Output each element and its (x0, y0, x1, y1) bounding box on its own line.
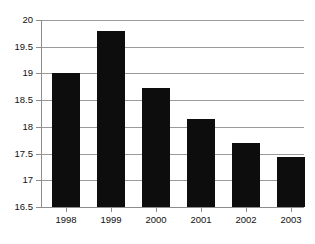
gridline-17 (41, 180, 304, 181)
bar-chart: 20 19.5 19 18.5 18 17.5 17 16.5 1998 199… (0, 0, 315, 244)
bar-1999 (97, 31, 125, 207)
x-tick-mark-2002 (246, 208, 247, 212)
y-tick-mark-17 (36, 180, 41, 181)
x-tick-mark-2000 (156, 208, 157, 212)
y-tick-mark-18 (36, 127, 41, 128)
gridline-20 (41, 20, 304, 21)
x-axis-label-2003: 2003 (268, 214, 314, 225)
x-axis-label-2001: 2001 (178, 214, 224, 225)
bar-2001 (187, 119, 215, 207)
y-axis-label-18-5: 18.5 (0, 95, 33, 105)
plot-area (41, 20, 304, 207)
y-tick-mark-16-5 (36, 207, 41, 208)
x-axis-line (41, 207, 304, 208)
bar-2002 (232, 143, 260, 207)
x-axis-label-2000: 2000 (133, 214, 179, 225)
y-axis-label-17-5: 17.5 (0, 149, 33, 159)
x-axis-label-2002: 2002 (223, 214, 269, 225)
x-tick-mark-1998 (66, 208, 67, 212)
y-axis-label-19-5: 19.5 (0, 42, 33, 52)
y-axis-label-18: 18 (0, 122, 33, 132)
x-axis-label-1998: 1998 (43, 214, 89, 225)
gridline-18 (41, 127, 304, 128)
bar-1998 (52, 73, 80, 207)
y-tick-mark-18-5 (36, 100, 41, 101)
y-tick-mark-19-5 (36, 47, 41, 48)
y-tick-mark-20 (36, 20, 41, 21)
x-axis-label-1999: 1999 (88, 214, 134, 225)
bar-2003 (277, 157, 305, 207)
y-tick-mark-17-5 (36, 154, 41, 155)
y-axis-label-19: 19 (0, 68, 33, 78)
gridline-18-5 (41, 100, 304, 101)
x-tick-mark-1999 (111, 208, 112, 212)
x-tick-mark-2001 (201, 208, 202, 212)
gridline-19 (41, 73, 304, 74)
y-axis-line (41, 20, 42, 208)
y-axis-label-17: 17 (0, 175, 33, 185)
gridline-17-5 (41, 154, 304, 155)
y-axis-label-20: 20 (0, 15, 33, 25)
bar-2000 (142, 88, 170, 207)
y-axis-label-16-5: 16.5 (0, 202, 33, 212)
y-tick-mark-19 (36, 73, 41, 74)
x-tick-mark-2003 (291, 208, 292, 212)
gridline-19-5 (41, 47, 304, 48)
